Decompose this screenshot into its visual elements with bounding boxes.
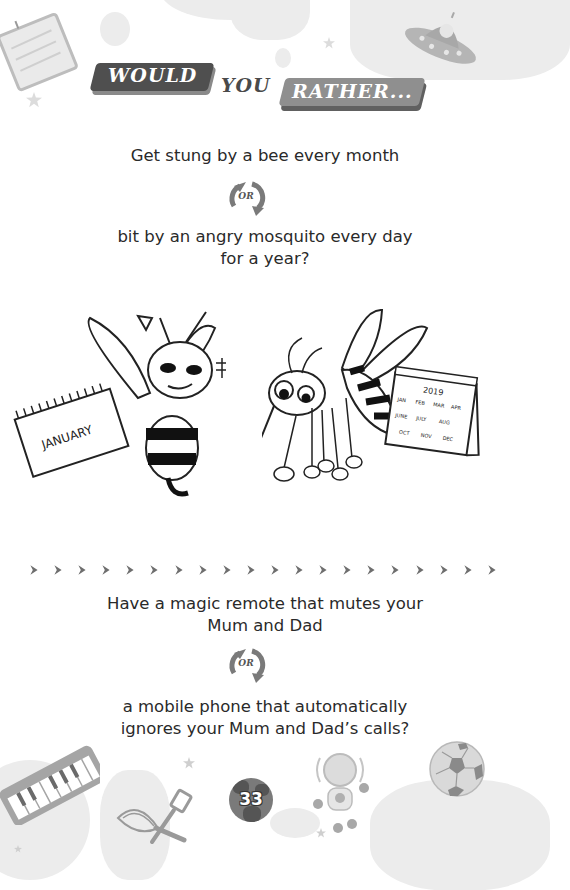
chevron-right-icon xyxy=(52,564,64,576)
title-banner: WOULD YOU RATHER... xyxy=(0,0,530,120)
soccer-ball-icon xyxy=(428,740,486,798)
chevron-right-icon xyxy=(269,564,281,576)
chevron-right-icon xyxy=(148,564,160,576)
chevron-right-icon xyxy=(100,564,112,576)
chevron-right-icon xyxy=(245,564,257,576)
page-number: 33 xyxy=(229,789,273,809)
chevron-right-icon xyxy=(76,564,88,576)
question-2-option-b-line1: a mobile phone that automatically xyxy=(0,696,530,718)
or-cycle-icon: OR xyxy=(226,178,266,218)
title-word-you: YOU xyxy=(221,74,271,96)
bee-with-calendar-illustration: JANUARY xyxy=(10,298,260,498)
chevron-right-icon xyxy=(462,564,474,576)
chevron-right-icon xyxy=(486,564,498,576)
star-icon xyxy=(14,845,22,853)
question-2-option-b-line2: ignores your Mum and Dad’s calls? xyxy=(0,718,530,740)
question-1-option-b-line2: for a year? xyxy=(0,248,530,270)
or-cycle-icon: OR xyxy=(226,645,266,685)
mosquito-with-calendar-illustration: 2019 JAN FEB MAR APR JUNE JULY AUG OCT N… xyxy=(262,298,492,498)
chevron-right-icon xyxy=(389,564,401,576)
star-icon xyxy=(183,757,195,769)
chevron-right-icon xyxy=(317,564,329,576)
or-label: OR xyxy=(226,191,266,201)
question-2-option-a-line2: Mum and Dad xyxy=(0,615,530,637)
chevron-right-icon xyxy=(365,564,377,576)
chevron-right-icon xyxy=(414,564,426,576)
question-1-option-a: Get stung by a bee every month xyxy=(0,145,530,167)
question-2-option-a-line1: Have a magic remote that mutes your xyxy=(0,593,530,615)
keyboard-icon xyxy=(0,745,100,825)
astronaut-icon xyxy=(310,748,380,843)
chevron-right-icon xyxy=(124,564,136,576)
whisk-and-spatula-icon xyxy=(108,788,198,848)
chevron-right-icon xyxy=(438,564,450,576)
title-word-rather: RATHER... xyxy=(292,80,413,102)
section-divider xyxy=(28,562,498,578)
chevron-right-icon xyxy=(173,564,185,576)
title-word-would: WOULD xyxy=(108,64,197,86)
chevron-right-icon xyxy=(293,564,305,576)
chevron-right-icon xyxy=(197,564,209,576)
or-label: OR xyxy=(226,658,266,668)
question-1-option-b-line1: bit by an angry mosquito every day xyxy=(0,226,530,248)
page-number-badge: 33 xyxy=(229,778,273,822)
chevron-right-icon xyxy=(221,564,233,576)
chevron-right-icon xyxy=(341,564,353,576)
chevron-right-icon xyxy=(28,564,40,576)
